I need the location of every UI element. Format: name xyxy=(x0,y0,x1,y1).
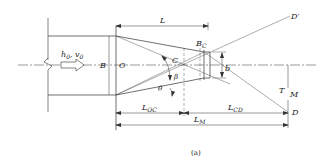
label-C: C xyxy=(172,56,178,65)
label-L-CD: LCD xyxy=(227,103,243,113)
contraction-diagram: h0, v0 B O C BC b β θ D′ D T M L LOC LCD… xyxy=(0,0,336,160)
diag-lower xyxy=(116,16,290,95)
beta-arc xyxy=(162,56,170,80)
flow-label: h0, v0 xyxy=(61,50,84,60)
flow-arrow-icon xyxy=(61,59,84,71)
label-Bc: BC xyxy=(195,39,207,49)
label-T: T xyxy=(279,86,285,95)
theta-arc xyxy=(170,88,172,96)
label-B: B xyxy=(99,61,106,70)
converge-top xyxy=(116,36,204,52)
label-L: L xyxy=(159,16,165,25)
label-D-prime: D′ xyxy=(290,12,299,21)
label-beta: β xyxy=(173,73,178,81)
label-D: D xyxy=(291,108,299,117)
label-M: M xyxy=(289,90,299,99)
label-b: b xyxy=(225,64,230,73)
figure-caption: (a) xyxy=(191,149,201,157)
label-L-M: LM xyxy=(193,115,206,125)
label-L-OC: LOC xyxy=(141,103,157,113)
line-to-D xyxy=(204,52,288,112)
label-O: O xyxy=(119,61,126,70)
